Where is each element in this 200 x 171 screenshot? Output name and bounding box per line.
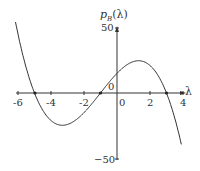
polynomial-curve: [16, 22, 182, 144]
y-axis-arrow-icon: [115, 26, 119, 32]
y-tick-bottom: −50: [94, 155, 115, 165]
ylabel-arg: (λ): [112, 8, 128, 21]
origin-label: 0: [108, 82, 114, 92]
x-axis-label: λ: [185, 86, 192, 97]
x-tick-label: -6: [13, 98, 23, 108]
y-tick-top: 50: [101, 23, 114, 33]
x-tick-label: -2: [79, 98, 89, 108]
x-tick-label: 4: [180, 98, 186, 108]
x-tick-label: -4: [46, 98, 56, 108]
ylabel-main: p: [100, 8, 107, 21]
x-tick-label: 2: [147, 98, 153, 108]
x-tick-label: 0: [119, 98, 125, 108]
chart-canvas: [0, 0, 200, 171]
